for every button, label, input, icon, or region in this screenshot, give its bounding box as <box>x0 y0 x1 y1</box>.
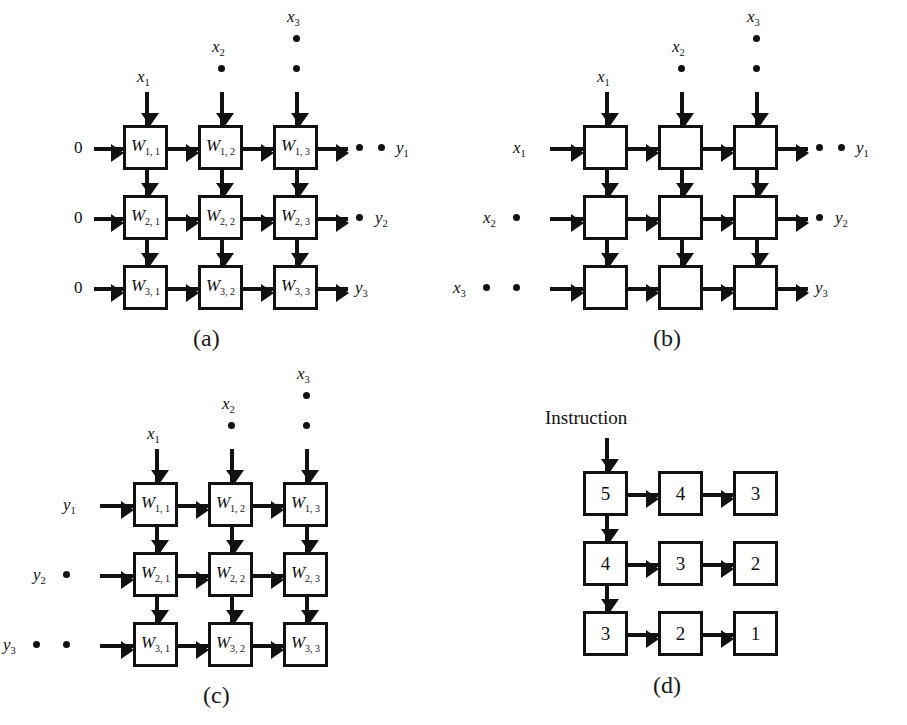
v-arrow-c3-r1-r2 <box>755 170 759 195</box>
h-arrow-d-r3-c1-c2 <box>628 633 658 637</box>
cell-w-2-2: W2, 2 <box>198 195 243 240</box>
caption-c: (c) <box>203 682 230 709</box>
cell-w-1-3: W1, 3 <box>273 125 318 170</box>
panel-c: x1 x2 x3 y1 y2 y3 W1, 1 W1, 2 W1, 3 W2, … <box>0 370 440 725</box>
top-input-dot-col3-b <box>293 65 300 72</box>
top-arrow-col1 <box>155 449 159 482</box>
cell-w-1-3: W1, 3 <box>283 482 328 527</box>
top-arrow-col3 <box>295 92 299 125</box>
left-arrow-row3 <box>100 644 133 648</box>
cell-w-1-1: W1, 1 <box>123 125 168 170</box>
top-input-label-x2: x2 <box>222 395 235 416</box>
left-input-label-row1: 0 <box>74 139 83 156</box>
h-arrow-r2-c1-c2 <box>178 574 208 578</box>
panel-d: Instruction 5 4 3 4 3 2 3 2 1 (d) <box>440 370 907 725</box>
top-arrow-col3 <box>755 92 759 125</box>
instruction-arrow <box>605 438 609 471</box>
left-input-dot-x3-b <box>513 284 520 291</box>
cell-3-3 <box>733 265 778 310</box>
cell-d-2-1: 4 <box>583 541 628 586</box>
left-input-dot-y2 <box>63 571 70 578</box>
v-arrow-c3-r2-r3 <box>305 597 309 622</box>
v-arrow-c1-r1-r2 <box>605 170 609 195</box>
left-input-label-x3: x3 <box>453 279 466 300</box>
v-arrow-c3-r1-r2 <box>305 527 309 552</box>
cell-w-2-3: W2, 3 <box>283 552 328 597</box>
cell-w-3-2: W3, 2 <box>208 622 253 667</box>
cell-w-2-3: W2, 3 <box>273 195 318 240</box>
panel-b: x1 x2 x3 x1 x2 x3 <box>440 0 907 370</box>
left-input-label-y1: y1 <box>63 496 76 517</box>
top-input-label-x1: x1 <box>147 425 160 446</box>
v-arrow-c2-r2-r3 <box>230 597 234 622</box>
h-arrow-r2-out <box>318 217 348 221</box>
cell-w-2-1: W2, 1 <box>133 552 178 597</box>
top-input-dot-col3-a <box>303 392 310 399</box>
cell-w-1-2: W1, 2 <box>198 125 243 170</box>
cell-w-2-2: W2, 2 <box>208 552 253 597</box>
top-input-label-x3: x3 <box>287 8 300 29</box>
cell-w-3-1: W3, 1 <box>123 265 168 310</box>
h-arrow-r3-c2-c3 <box>243 287 273 291</box>
panel-a: x1 x2 x3 0 0 0 W1, 1 W1, 2 W1, 3 W2, 1 W… <box>0 0 440 370</box>
left-input-dot-x3-a <box>483 284 490 291</box>
h-arrow-r1-c2-c3 <box>703 147 733 151</box>
cell-d-3-3: 1 <box>733 611 778 656</box>
left-arrow-row3 <box>550 287 583 291</box>
h-arrow-r1-c1-c2 <box>628 147 658 151</box>
h-arrow-r1-c2-c3 <box>253 504 283 508</box>
left-arrow-row1 <box>550 147 583 151</box>
v-arrow-d-c1-r2-r3 <box>605 586 609 611</box>
cell-w-3-2: W3, 2 <box>198 265 243 310</box>
cell-3-1 <box>583 265 628 310</box>
cell-2-3 <box>733 195 778 240</box>
right-output-dot-r1-a <box>816 144 823 151</box>
cell-3-2 <box>658 265 703 310</box>
h-arrow-r2-c2-c3 <box>243 217 273 221</box>
right-output-label-y1: y1 <box>396 139 409 160</box>
h-arrow-r3-c1-c2 <box>178 644 208 648</box>
h-arrow-r2-c2-c3 <box>253 574 283 578</box>
left-arrow-row1 <box>94 147 123 151</box>
h-arrow-r2-c2-c3 <box>703 217 733 221</box>
v-arrow-c3-r2-r3 <box>295 240 299 265</box>
left-input-label-x2: x2 <box>483 209 496 230</box>
h-arrow-r3-c1-c2 <box>628 287 658 291</box>
v-arrow-c2-r1-r2 <box>220 170 224 195</box>
left-input-label-y2: y2 <box>33 566 46 587</box>
cell-w-3-3: W3, 3 <box>283 622 328 667</box>
top-arrow-col1 <box>605 92 609 125</box>
v-arrow-c1-r2-r3 <box>605 240 609 265</box>
top-input-dot-col3-b <box>753 65 760 72</box>
right-output-dot-r2 <box>816 214 823 221</box>
h-arrow-r3-c2-c3 <box>253 644 283 648</box>
caption-a: (a) <box>193 325 220 352</box>
v-arrow-c2-r1-r2 <box>230 527 234 552</box>
left-input-label-y3: y3 <box>3 636 16 657</box>
left-input-label-x1: x1 <box>513 139 526 160</box>
top-input-dot-col2 <box>678 65 685 72</box>
right-output-dot-r1-a <box>356 144 363 151</box>
cell-d-2-2: 3 <box>658 541 703 586</box>
top-input-dot-col3-b <box>303 422 310 429</box>
left-input-label-row2: 0 <box>74 209 83 226</box>
left-input-dot-x2 <box>513 214 520 221</box>
right-output-label-y1: y1 <box>856 139 869 160</box>
h-arrow-d-r2-c1-c2 <box>628 563 658 567</box>
right-output-dot-r1-b <box>838 144 845 151</box>
h-arrow-r3-out <box>778 287 808 291</box>
cell-d-1-1: 5 <box>583 471 628 516</box>
top-input-label-x2: x2 <box>672 38 685 59</box>
left-arrow-row2 <box>94 217 123 221</box>
left-arrow-row2 <box>100 574 133 578</box>
h-arrow-r3-c1-c2 <box>168 287 198 291</box>
cell-w-2-1: W2, 1 <box>123 195 168 240</box>
h-arrow-r1-out <box>318 147 348 151</box>
h-arrow-d-r2-c2-c3 <box>703 563 733 567</box>
right-output-label-y2: y2 <box>375 209 388 230</box>
top-input-dot-col3-a <box>753 35 760 42</box>
v-arrow-c1-r2-r3 <box>155 597 159 622</box>
top-input-label-x2: x2 <box>212 38 225 59</box>
instruction-label: Instruction <box>545 408 627 427</box>
v-arrow-c3-r2-r3 <box>755 240 759 265</box>
